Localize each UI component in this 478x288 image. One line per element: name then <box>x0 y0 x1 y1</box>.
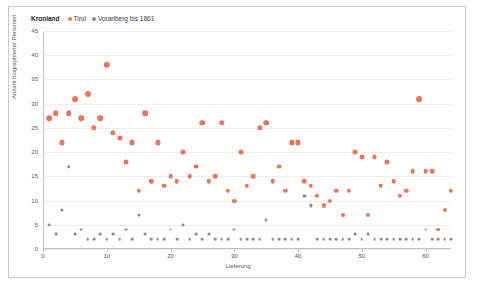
data-point <box>372 155 377 160</box>
gridline <box>43 104 451 105</box>
x-tickmark <box>107 249 108 252</box>
gridline <box>43 249 451 250</box>
data-point <box>252 238 255 241</box>
gridline <box>43 31 451 32</box>
legend-label-vorarlberg: Vorarlberg bis 1861 <box>98 15 154 22</box>
data-point <box>290 238 293 241</box>
data-point <box>67 165 71 169</box>
data-point <box>112 233 115 236</box>
data-point <box>322 238 325 241</box>
x-tickmark <box>43 249 44 252</box>
data-point <box>303 194 306 197</box>
data-point <box>219 120 224 125</box>
gridline <box>43 152 451 153</box>
data-point <box>392 238 395 241</box>
x-tickmark <box>234 249 235 252</box>
legend-dot-tirol <box>68 17 72 21</box>
data-point <box>105 238 108 241</box>
data-point <box>258 238 261 241</box>
data-point <box>335 238 338 241</box>
data-point <box>61 209 64 212</box>
data-point <box>245 184 249 188</box>
data-point <box>309 204 312 207</box>
data-point <box>437 238 440 241</box>
data-point <box>416 96 422 102</box>
data-point <box>284 238 287 241</box>
gridline <box>43 79 451 80</box>
data-point <box>405 238 408 241</box>
data-point <box>220 238 223 241</box>
data-point <box>379 184 383 188</box>
data-point <box>117 135 122 140</box>
x-tickmark <box>171 249 172 252</box>
y-tick-label: 10 <box>9 198 41 204</box>
x-tick-label: 60 <box>422 253 429 259</box>
data-point <box>360 238 363 241</box>
data-point <box>201 238 204 241</box>
data-point <box>373 238 376 241</box>
data-point <box>321 203 325 207</box>
data-point <box>295 140 300 145</box>
data-point <box>449 189 453 193</box>
legend-entry-tirol: Tirol <box>68 15 86 22</box>
data-point <box>175 179 180 184</box>
data-point <box>144 233 147 236</box>
data-point <box>142 111 148 117</box>
data-point <box>424 228 427 231</box>
data-point <box>194 164 199 169</box>
data-point <box>54 233 57 236</box>
data-point <box>60 140 65 145</box>
y-tick-label: 25 <box>9 125 41 131</box>
data-point <box>341 213 345 217</box>
data-point <box>246 238 249 241</box>
data-point <box>404 189 408 193</box>
y-tick-label: 5 <box>9 222 41 228</box>
data-point <box>257 125 262 130</box>
data-point <box>443 208 447 212</box>
data-point <box>226 189 230 193</box>
data-point <box>195 233 198 236</box>
data-point <box>328 198 332 202</box>
x-axis-title: Lieferung <box>9 263 467 269</box>
data-point <box>131 238 134 241</box>
data-point <box>341 238 344 241</box>
data-point <box>124 228 127 231</box>
y-tick-label: 35 <box>9 76 41 82</box>
data-point <box>276 164 281 169</box>
legend-title: Kronland <box>31 15 60 22</box>
data-point <box>118 238 121 241</box>
data-point <box>200 120 205 125</box>
data-point <box>136 189 140 193</box>
gridline <box>43 128 451 129</box>
data-point <box>137 214 140 217</box>
data-point <box>207 233 210 236</box>
data-point <box>283 189 287 193</box>
data-point <box>182 223 185 226</box>
data-point <box>149 179 154 184</box>
y-tick-label: 40 <box>9 52 41 58</box>
data-point <box>367 233 370 236</box>
gridline <box>43 176 451 177</box>
data-point <box>238 150 243 155</box>
data-point <box>353 150 358 155</box>
data-point <box>348 238 351 241</box>
data-point <box>163 238 166 241</box>
gridline <box>43 55 451 56</box>
data-point <box>206 179 211 184</box>
data-point <box>48 223 51 226</box>
data-point <box>150 238 153 241</box>
data-point <box>156 238 159 241</box>
gridline <box>43 201 451 202</box>
data-point <box>436 228 440 232</box>
data-point <box>47 115 53 121</box>
data-point <box>385 159 390 164</box>
data-point <box>214 238 217 241</box>
data-point <box>53 111 59 117</box>
data-point <box>418 238 421 241</box>
y-tick-label: 45 <box>9 28 41 34</box>
data-point <box>169 228 172 231</box>
plot-area <box>43 31 451 249</box>
data-point <box>423 169 428 174</box>
data-point <box>72 96 78 102</box>
x-tick-label: 50 <box>358 253 365 259</box>
